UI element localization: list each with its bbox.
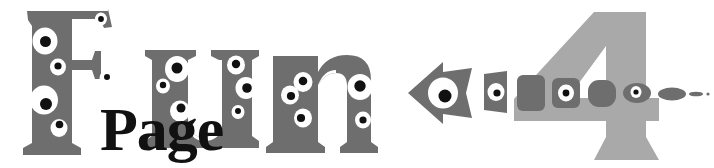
- letter-f-eye-4: [51, 119, 68, 137]
- trail-shape-7-dot: [706, 92, 709, 95]
- trail-shape-6: [658, 88, 686, 101]
- letter-f-eye-2: [50, 59, 66, 76]
- letter-n-eye-4: [348, 74, 373, 100]
- letter-u-eye-4: [227, 56, 245, 75]
- letter-f-eye-5: [95, 13, 107, 26]
- trail-shape-7-dash: [689, 92, 703, 97]
- banner-artwork: Fun Page 4: [0, 0, 714, 168]
- trail-shape-4: [588, 80, 616, 107]
- trail-shape-3-eye: [558, 85, 574, 102]
- arrow-head: [408, 62, 472, 124]
- trail-shape-6-shape: [658, 88, 686, 101]
- trail-shape-5: [623, 83, 651, 103]
- trail-shape-7: [689, 92, 710, 97]
- letter-n-eye-5: [355, 112, 371, 129]
- trail-shape-4-shape: [588, 80, 616, 107]
- trail-shape-2-shape: [517, 75, 545, 111]
- letter-u-eye-1: [165, 56, 189, 82]
- letter-f-eye-3: [30, 86, 58, 115]
- letter-u-eye-2: [156, 79, 170, 94]
- trail-shape-1-eye: [488, 83, 505, 101]
- arrow-head-eye: [428, 78, 458, 109]
- letter-f-shape: [23, 9, 112, 155]
- subhead-page-text: Page: [100, 95, 223, 163]
- trail-shape-1: [484, 71, 507, 113]
- letter-n-eye-2: [281, 86, 299, 105]
- fun-page-banner: Fun Page 4: [0, 0, 714, 168]
- letter-u-eye-6: [232, 105, 245, 119]
- letter-f-eye-1: [33, 28, 58, 55]
- letter-n-eye-3: [294, 109, 312, 128]
- letter-f-eye-6: [100, 71, 113, 85]
- subhead-page: Page: [100, 95, 223, 163]
- letter-n: [266, 55, 378, 153]
- trail-shape-3: [552, 78, 580, 108]
- trail-shape-2: [517, 75, 545, 111]
- letter-u-eye-5: [236, 77, 257, 99]
- letter-n-shape: [266, 55, 378, 153]
- trail-shape-5-eye: [631, 86, 642, 98]
